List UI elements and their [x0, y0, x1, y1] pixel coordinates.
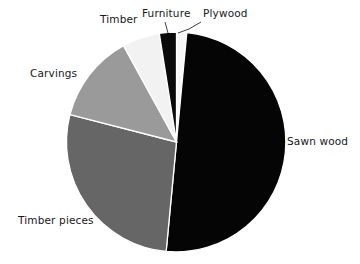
pie-label-timber-pieces: Timber pieces — [18, 215, 94, 227]
leader-line-plywood — [178, 22, 201, 33]
pie-chart-figure: Sawn wood Timber pieces Carvings Timber … — [0, 0, 360, 264]
pie-label-timber: Timber — [100, 14, 138, 26]
pie-slices — [67, 32, 286, 252]
pie-label-carvings: Carvings — [30, 68, 77, 80]
pie-slice-sawn-wood[interactable] — [166, 32, 286, 251]
leader-line-furniture — [165, 22, 168, 33]
pie-label-furniture: Furniture — [142, 8, 191, 20]
leader-lines — [165, 22, 201, 33]
pie-label-sawn-wood: Sawn wood — [287, 136, 348, 148]
pie-label-plywood: Plywood — [203, 8, 248, 20]
